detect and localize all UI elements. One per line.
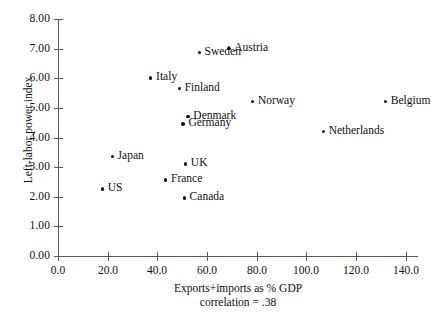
data-point-label: Sweden xyxy=(205,45,241,57)
data-point-label: Netherlands xyxy=(329,124,385,136)
y-tick xyxy=(54,19,63,20)
y-tick xyxy=(54,197,63,198)
data-point-marker xyxy=(101,187,104,190)
x-tick xyxy=(207,252,208,261)
y-tick-label: 8.00 xyxy=(6,13,50,25)
x-axis-line xyxy=(58,256,418,257)
data-point-marker xyxy=(164,178,167,181)
y-tick xyxy=(54,138,63,139)
data-point-marker xyxy=(384,100,387,103)
data-point-label: UK xyxy=(191,156,208,168)
data-point-marker xyxy=(198,51,201,54)
data-point-label: Japan xyxy=(118,149,144,161)
x-tick xyxy=(108,252,109,261)
data-point-marker xyxy=(149,76,152,79)
data-point-label: Norway xyxy=(258,94,295,106)
data-point-label: Canada xyxy=(190,190,224,202)
y-tick xyxy=(54,226,63,227)
y-axis-title: Left-labor power index xyxy=(22,40,34,220)
correlation-annotation: correlation = .38 xyxy=(58,296,418,308)
data-point-marker xyxy=(183,196,186,199)
y-tick xyxy=(54,49,63,50)
data-point-label: Finland xyxy=(185,81,220,93)
x-tick xyxy=(306,252,307,261)
data-point-marker xyxy=(251,100,254,103)
x-axis-title: Exports+imports as % GDP xyxy=(58,282,418,294)
y-tick-label: 1.00 xyxy=(6,220,50,232)
scatter-chart: 0.001.002.003.004.005.006.007.008.00 0.0… xyxy=(0,0,439,321)
data-point-marker xyxy=(111,155,114,158)
data-point-label: Germany xyxy=(188,116,231,128)
data-point-label: Belgium xyxy=(391,94,431,106)
data-point-label: US xyxy=(108,181,123,193)
y-tick-label: 0.00 xyxy=(6,250,50,262)
data-point-marker xyxy=(181,122,184,125)
x-tick-label: 140.0 xyxy=(376,264,436,276)
x-tick xyxy=(157,252,158,261)
plot-area: 0.001.002.003.004.005.006.007.008.00 0.0… xyxy=(0,0,439,321)
data-point-marker xyxy=(184,162,187,165)
x-tick xyxy=(406,252,407,261)
data-point-marker xyxy=(322,130,325,133)
y-tick xyxy=(54,167,63,168)
y-tick xyxy=(54,108,63,109)
data-point-label: France xyxy=(171,172,202,184)
y-tick xyxy=(54,78,63,79)
x-tick xyxy=(356,252,357,261)
x-tick xyxy=(257,252,258,261)
data-point-label: Italy xyxy=(156,70,177,82)
data-point-marker xyxy=(178,87,181,90)
x-tick xyxy=(58,252,59,261)
